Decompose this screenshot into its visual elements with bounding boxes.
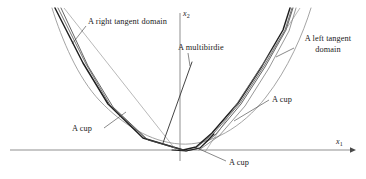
polyline-cups-mid: [61, 8, 293, 151]
y-axis-label-subscript: 2: [187, 13, 190, 19]
leader-cup-left: [104, 112, 126, 128]
diagram-canvas: [0, 0, 366, 179]
multibirdie-line: [163, 62, 192, 143]
label-left-tangent-domain: A left tangent domain: [296, 33, 360, 55]
label-left-tangent-domain-line1: A left tangent: [305, 34, 352, 43]
x-axis-label: x1: [336, 137, 343, 146]
leader-cup-right: [234, 100, 269, 121]
figure-container: A right tangent domain A multibirdie A l…: [0, 0, 366, 179]
left-tangent-domain-strand-b: [199, 8, 296, 150]
x-axis-arrowhead: [350, 147, 356, 153]
label-cup-left: A cup: [72, 123, 92, 134]
inner-polygonal-chain: [61, 8, 293, 151]
left-tangent-ray: [205, 8, 300, 152]
label-left-tangent-domain-line2: domain: [315, 45, 341, 54]
label-cup-bottom: A cup: [229, 157, 249, 168]
multibirdie-segment: [163, 62, 192, 143]
x-axis-label-subscript: 1: [340, 141, 343, 147]
leader-multibirdie: [188, 53, 190, 66]
label-cup-right: A cup: [272, 94, 292, 105]
leader-right-tangent-domain: [72, 26, 86, 44]
label-multibirdie: A multibirdie: [178, 42, 224, 53]
y-axis-label: x2: [183, 9, 190, 18]
tangent-domain-strands: [58, 8, 300, 152]
label-right-tangent-domain: A right tangent domain: [88, 16, 167, 27]
left-tangent-domain-strand-a: [196, 8, 292, 148]
